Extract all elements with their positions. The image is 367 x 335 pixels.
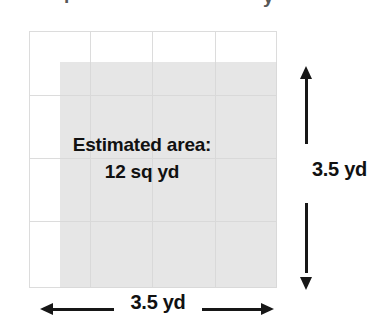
cropped-text-strip: l y [0, 0, 366, 12]
horizontal-dimension-arrow-icon: 3.5 yd [40, 300, 274, 318]
cropped-text-fragment-2: y [263, 0, 274, 6]
arrow-shaft-left [51, 308, 114, 311]
estimated-area-line-1: Estimated area: [73, 134, 212, 155]
horizontal-dimension-label: 3.5 yd [114, 291, 202, 314]
estimated-area-label: Estimated area: 12 sq yd [29, 131, 255, 185]
arrow-head-down-icon [300, 277, 312, 290]
grid-line-horizontal-overlay [60, 95, 277, 96]
arrow-shaft-top [305, 75, 308, 144]
grid-line-horizontal-overlay [60, 221, 277, 222]
estimated-area-line-2: 12 sq yd [29, 158, 255, 185]
arrow-head-right-icon [261, 303, 274, 315]
arrow-shaft-right [201, 308, 261, 311]
arrow-shaft-bottom [305, 203, 308, 273]
vertical-dimension-label: 3.5 yd [312, 158, 367, 181]
grid-line-horizontal-overlay [60, 287, 277, 288]
cropped-text-fragment-1: l [64, 0, 69, 6]
grid-line-horizontal [29, 31, 277, 32]
